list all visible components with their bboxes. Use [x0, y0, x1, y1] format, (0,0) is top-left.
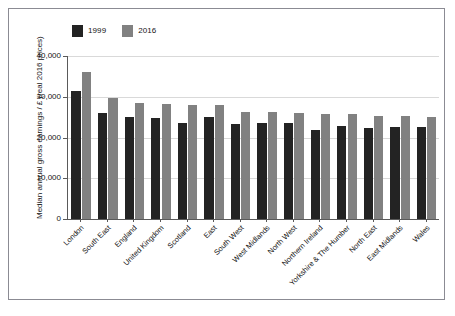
x-axis-tick-mark	[240, 219, 241, 222]
bar-group	[337, 56, 357, 219]
bar-group	[178, 56, 198, 219]
bar-group	[390, 56, 410, 219]
bar[interactable]	[151, 118, 160, 219]
x-axis-tick-mark	[399, 219, 400, 222]
bar-group	[417, 56, 437, 219]
x-axis-tick-mark	[426, 219, 427, 222]
x-axis-tick-mark	[266, 219, 267, 222]
bar[interactable]	[231, 124, 240, 219]
y-axis-tick-label: 10,000	[37, 174, 61, 182]
bar-group	[98, 56, 118, 219]
x-axis-tick-mark	[346, 219, 347, 222]
x-axis-tick-mark	[373, 219, 374, 222]
bar[interactable]	[135, 103, 144, 219]
x-axis-tick-label: London	[0, 224, 86, 316]
bar[interactable]	[125, 117, 134, 219]
bar[interactable]	[162, 104, 171, 219]
bar[interactable]	[321, 114, 330, 219]
x-axis-tick-mark	[213, 219, 214, 222]
bar[interactable]	[401, 116, 410, 219]
bar-group	[364, 56, 384, 219]
y-axis-tick-label: 40,000	[37, 52, 61, 60]
x-axis-tick-mark	[107, 219, 108, 222]
bar-groups	[68, 56, 439, 219]
chart-legend: 19992016	[72, 25, 156, 37]
plot-area: 40,00030,00020,00010,0000	[67, 56, 439, 219]
bar[interactable]	[364, 128, 373, 219]
y-axis-tick-label: 0	[57, 215, 61, 223]
bar[interactable]	[204, 117, 213, 219]
bar-group	[204, 56, 224, 219]
x-axis-tick-mark	[293, 219, 294, 222]
bar-group	[231, 56, 251, 219]
legend-label: 2016	[138, 27, 156, 35]
bar[interactable]	[390, 127, 399, 219]
bar[interactable]	[268, 112, 277, 219]
bar-group	[311, 56, 331, 219]
bar[interactable]	[71, 91, 80, 219]
bar-group	[284, 56, 304, 219]
bar-group	[125, 56, 145, 219]
bar[interactable]	[241, 112, 250, 219]
y-axis-tick-label: 20,000	[37, 134, 61, 142]
legend-swatch-icon	[122, 25, 133, 37]
bar-group	[257, 56, 277, 219]
bar[interactable]	[98, 113, 107, 219]
chart-figure: 19992016 Median annual gross earnings / …	[8, 8, 445, 300]
legend-entry[interactable]: 2016	[122, 25, 156, 37]
bar[interactable]	[427, 117, 436, 219]
bar[interactable]	[108, 98, 117, 219]
bar[interactable]	[284, 123, 293, 219]
legend-entry[interactable]: 1999	[72, 25, 106, 37]
bar[interactable]	[188, 105, 197, 219]
bar[interactable]	[178, 123, 187, 219]
bar-group	[71, 56, 91, 219]
legend-label: 1999	[88, 27, 106, 35]
bar[interactable]	[374, 116, 383, 219]
bar[interactable]	[337, 126, 346, 219]
bar-group	[151, 56, 171, 219]
x-axis-tick-mark	[319, 219, 320, 222]
x-axis-line	[67, 219, 439, 220]
legend-swatch-icon	[72, 25, 83, 37]
bar[interactable]	[294, 113, 303, 219]
bar[interactable]	[311, 130, 320, 219]
bar[interactable]	[82, 72, 91, 219]
bar[interactable]	[257, 123, 266, 219]
bar[interactable]	[348, 114, 357, 219]
y-axis-tick-label: 30,000	[37, 93, 61, 101]
bar[interactable]	[417, 127, 426, 219]
bar[interactable]	[215, 105, 224, 219]
x-axis-tick-mark	[133, 219, 134, 222]
x-axis-tick-mark	[160, 219, 161, 222]
x-axis-tick-mark	[80, 219, 81, 222]
x-axis-tick-mark	[187, 219, 188, 222]
